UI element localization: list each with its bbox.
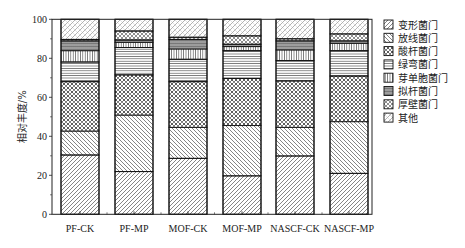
legend-swatch-icon <box>384 87 393 96</box>
bar-segment <box>169 127 207 158</box>
bar-segment <box>61 51 99 62</box>
x-category-label: PF-MP <box>120 223 149 234</box>
legend-label: 拟杆菌门 <box>398 85 438 97</box>
x-category-label: PF-CK <box>66 223 95 234</box>
x-category-label: NASCF-CK <box>270 223 320 234</box>
bar-segment <box>330 51 368 76</box>
bar-segment <box>115 48 153 75</box>
bar-segment <box>61 19 99 39</box>
legend-swatch-icon <box>384 113 393 122</box>
legend-item: 芽单胞菌门 <box>384 72 448 84</box>
bar-segment <box>330 43 368 50</box>
legend-label: 变形菌门 <box>398 19 438 31</box>
legend-label: 酸杆菌门 <box>398 45 438 57</box>
legend-label: 其他 <box>398 112 418 124</box>
bar-segment <box>223 36 261 44</box>
legend-swatch-icon <box>384 47 393 56</box>
legend-swatch-icon <box>384 33 393 42</box>
bar-nascf-ck <box>276 19 314 214</box>
bar-segment <box>330 76 368 122</box>
x-category-label: NASCF-MP <box>324 223 374 234</box>
legend-label: 绿弯菌门 <box>398 58 438 70</box>
legend-label: 芽单胞菌门 <box>398 72 448 84</box>
x-category-label: MOF-CK <box>169 223 209 234</box>
bar-mof-mp <box>223 19 261 214</box>
bar-segment <box>276 50 314 61</box>
legend-swatch-icon <box>384 60 393 69</box>
bar-nascf-mp <box>330 19 368 214</box>
y-tick-label: 0 <box>42 209 47 220</box>
bar-segment <box>169 49 207 59</box>
y-tick-label: 80 <box>37 53 47 64</box>
legend-swatch-icon <box>384 20 393 29</box>
y-tick-label: 100 <box>32 14 47 25</box>
y-tick-label: 40 <box>37 131 47 142</box>
bar-segment <box>330 34 368 41</box>
bar-segment <box>276 19 314 39</box>
legend-item: 酸杆菌门 <box>384 45 438 57</box>
bar-segment <box>330 122 368 174</box>
bar-segment <box>276 61 314 81</box>
bar-segment <box>276 41 314 50</box>
bar-segment <box>115 172 153 215</box>
bar-segment <box>223 176 261 214</box>
bars-group <box>61 19 368 214</box>
bar-segment <box>276 81 314 127</box>
bar-segment <box>61 41 99 51</box>
bar-mof-ck <box>169 19 207 214</box>
stacked-bar-chart: 020406080100PF-CKPF-MPMOF-CKMOF-MPNASCF-… <box>0 0 465 248</box>
bar-segment <box>330 173 368 214</box>
plot-frame <box>52 19 372 214</box>
bar-segment <box>115 19 153 31</box>
bar-segment <box>169 19 207 37</box>
legend-label: 厚壁菌门 <box>398 98 438 110</box>
legend-item: 放线菌门 <box>384 32 438 44</box>
bar-segment <box>115 42 153 47</box>
legend-item: 其他 <box>384 112 418 124</box>
legend-label: 放线菌门 <box>398 32 438 44</box>
legend-item: 变形菌门 <box>384 19 438 31</box>
x-category-label: MOF-MP <box>222 223 262 234</box>
bar-segment <box>223 51 261 79</box>
bar-segment <box>61 82 99 131</box>
bar-segment <box>115 75 153 115</box>
bar-segment <box>115 31 153 40</box>
bar-segment <box>169 39 207 49</box>
legend-swatch-icon <box>384 100 393 109</box>
bar-segment <box>115 115 153 172</box>
bar-segment <box>330 19 368 34</box>
bar-segment <box>276 156 314 214</box>
bar-segment <box>223 19 261 36</box>
bar-segment <box>223 126 261 176</box>
legend-item: 绿弯菌门 <box>384 58 438 70</box>
bar-segment <box>61 155 99 214</box>
bar-segment <box>223 78 261 125</box>
legend: 变形菌门放线菌门酸杆菌门绿弯菌门芽单胞菌门拟杆菌门厚壁菌门其他 <box>384 19 448 124</box>
legend-item: 厚壁菌门 <box>384 98 438 110</box>
legend-item: 拟杆菌门 <box>384 85 438 97</box>
y-axis-label: 相对丰度/% <box>16 90 28 143</box>
bar-segment <box>61 62 99 82</box>
bar-pf-mp <box>115 19 153 214</box>
y-tick-label: 20 <box>37 170 47 181</box>
bar-segment <box>169 158 207 214</box>
bar-segment <box>61 131 99 155</box>
bar-segment <box>276 127 314 156</box>
bar-segment <box>169 59 207 81</box>
bar-pf-ck <box>61 19 99 214</box>
bar-segment <box>169 82 207 128</box>
bar-segment <box>223 47 261 51</box>
legend-swatch-icon <box>384 73 393 82</box>
y-tick-label: 60 <box>37 92 47 103</box>
